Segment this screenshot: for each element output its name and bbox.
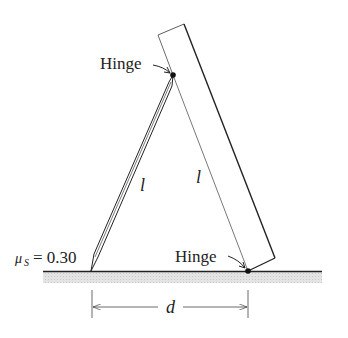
plank <box>158 24 275 271</box>
ground-shading <box>43 272 322 283</box>
friction-value: = 0.30 <box>33 248 77 267</box>
ladder-plank-diagram: Hinge Hinge l l d μ S = 0.30 <box>0 0 348 338</box>
top-hinge-arrow <box>153 65 170 73</box>
rod-length-label: l <box>140 175 145 195</box>
plank-length-label: l <box>196 167 201 187</box>
top-hinge-pin <box>170 72 176 78</box>
friction-coefficient-label: μ S = 0.30 <box>14 248 77 268</box>
distance-label: d <box>166 297 176 317</box>
mu-symbol: μ <box>14 251 22 266</box>
top-hinge-label: Hinge <box>100 54 142 73</box>
ground <box>43 272 322 284</box>
bottom-hinge-arrow <box>228 256 245 268</box>
bottom-hinge-pin <box>245 268 251 274</box>
mu-subscript: S <box>24 257 29 268</box>
bottom-hinge-label: Hinge <box>175 247 217 266</box>
rod <box>91 75 173 271</box>
